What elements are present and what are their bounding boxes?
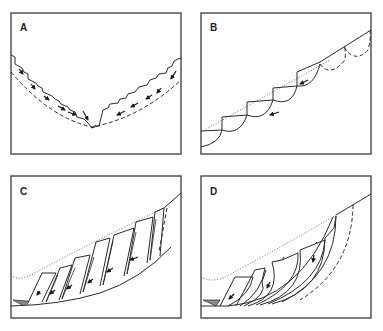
- panel-c-ground-upper: [164, 193, 181, 208]
- panel-b-label: B: [210, 22, 217, 33]
- panel-b-frame: [201, 13, 371, 154]
- panel-a-left-steps: [11, 55, 96, 128]
- panel-b-slump-4: [273, 86, 297, 102]
- panel-a-label: A: [20, 22, 27, 33]
- panel-b-slump-3: [247, 100, 273, 117]
- panel-b-original-surface: [201, 60, 330, 132]
- panel-a-right-steps: [99, 58, 181, 126]
- panel-b-arrow-1: [270, 112, 279, 115]
- panel-c-frame: [11, 176, 181, 318]
- panel-d-label: D: [210, 186, 217, 197]
- panel-c-base-surface: [11, 247, 171, 306]
- panel-d: D: [201, 176, 371, 318]
- panel-c: C: [11, 176, 181, 318]
- panel-a: A: [11, 13, 181, 154]
- panel-b-slump-2: [222, 115, 247, 131]
- panel-a-arrows-left: [19, 69, 88, 120]
- panel-d-curved-base: [228, 217, 333, 306]
- panel-b-stepped-surface: [201, 30, 371, 131]
- panel-d-ground-upper: [336, 194, 371, 215]
- panel-c-label: C: [20, 186, 27, 197]
- panel-d-original-surface: [201, 215, 336, 280]
- panel-b-slump-1: [201, 130, 222, 147]
- figure-canvas: A B: [0, 0, 383, 331]
- panel-d-debris-wedge: [203, 300, 220, 306]
- panel-d-incipient-surface: [300, 205, 353, 300]
- panel-a-arrows-right: [117, 71, 176, 115]
- panel-b-incipient-2: [344, 31, 370, 56]
- panel-a-basal-surface: [11, 72, 181, 127]
- panel-d-slices: [220, 216, 336, 306]
- panel-b: B: [201, 13, 371, 154]
- panel-c-blocks: [27, 208, 167, 305]
- panel-c-original-surface: [11, 208, 164, 278]
- panel-b-arrow-2: [300, 80, 308, 84]
